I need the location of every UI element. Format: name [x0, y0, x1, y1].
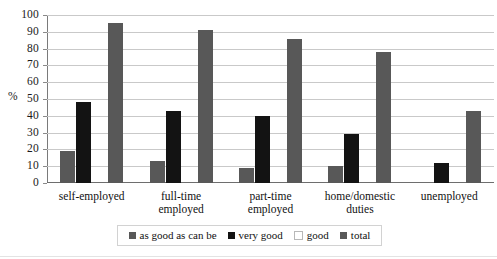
- x-axis-category-unemployed: unemployed: [405, 190, 494, 203]
- legend-swatch-icon: [340, 232, 347, 239]
- legend-item-very-good: very good: [228, 230, 283, 241]
- legend-swatch-icon: [294, 231, 303, 240]
- bar-as-good-as-can-be-self-employed: [60, 151, 75, 183]
- y-axis-tick-label: 50: [0, 93, 39, 105]
- legend-item-label: total: [351, 230, 371, 241]
- category-label-line: self-employed: [47, 190, 136, 203]
- y-axis-tick-label: 30: [0, 127, 39, 139]
- category-label-line: part-time: [226, 190, 315, 203]
- y-axis-tick-label: 80: [0, 43, 39, 55]
- legend-item-as-good-as-can-be: as good as can be: [129, 230, 217, 241]
- plot-area: 0102030405060708090100: [47, 15, 494, 183]
- legend-item-total: total: [340, 230, 371, 241]
- chart-legend: as good as can be very good good total: [117, 225, 382, 246]
- bar-as-good-as-can-be-home-domestic-duties: [328, 166, 343, 183]
- bar-as-good-as-can-be-part-time-employed: [239, 168, 254, 183]
- bar-chart: % 0102030405060708090100 self-employedfu…: [0, 0, 497, 259]
- y-axis-tick-label: 100: [0, 9, 39, 21]
- y-axis-tick-label: 10: [0, 160, 39, 172]
- legend-swatch-icon: [228, 232, 235, 239]
- x-axis-category-home-domestic-duties: home/domesticduties: [315, 190, 404, 216]
- y-axis-tick-mark: [43, 32, 47, 33]
- bar-very-good-self-employed: [76, 102, 91, 183]
- legend-item-label: as good as can be: [140, 230, 217, 241]
- category-label-line: duties: [315, 203, 404, 216]
- legend-swatch-icon: [129, 232, 136, 239]
- y-axis-tick-mark: [43, 116, 47, 117]
- bar-total-home-domestic-duties: [376, 52, 391, 183]
- x-axis-category-self-employed: self-employed: [47, 190, 136, 203]
- y-axis-tick-mark: [43, 149, 47, 150]
- y-axis-tick-mark: [43, 49, 47, 50]
- bar-total-full-time-employed: [198, 30, 213, 183]
- bar-as-good-as-can-be-full-time-employed: [150, 161, 165, 183]
- bar-very-good-part-time-employed: [255, 116, 270, 183]
- y-axis-tick-label: 60: [0, 76, 39, 88]
- category-label-line: full-time: [136, 190, 225, 203]
- bar-total-part-time-employed: [287, 39, 302, 183]
- legend-item-good: good: [294, 230, 329, 241]
- y-axis-tick-mark: [43, 15, 47, 16]
- bar-very-good-home-domestic-duties: [344, 134, 359, 183]
- y-axis-tick-label: 20: [0, 143, 39, 155]
- category-label-line: employed: [136, 203, 225, 216]
- legend-item-label: very good: [239, 230, 283, 241]
- x-axis-category-full-time-employed: full-timeemployed: [136, 190, 225, 216]
- y-axis-tick-mark: [43, 183, 47, 184]
- y-axis-tick-label: 0: [0, 177, 39, 189]
- y-axis-tick-mark: [43, 133, 47, 134]
- bar-total-unemployed: [466, 111, 481, 183]
- x-axis-category-part-time-employed: part-timeemployed: [226, 190, 315, 216]
- y-axis-tick-mark: [43, 82, 47, 83]
- gridline: [47, 15, 494, 16]
- category-label-line: home/domestic: [315, 190, 404, 203]
- category-label-line: unemployed: [405, 190, 494, 203]
- y-axis-tick-mark: [43, 65, 47, 66]
- category-label-line: employed: [226, 203, 315, 216]
- y-axis-tick-mark: [43, 166, 47, 167]
- y-axis-tick-mark: [43, 99, 47, 100]
- bar-very-good-full-time-employed: [166, 111, 181, 183]
- y-axis-tick-label: 70: [0, 59, 39, 71]
- y-axis-tick-label: 90: [0, 26, 39, 38]
- bar-total-self-employed: [108, 23, 123, 183]
- y-axis-tick-label: 40: [0, 110, 39, 122]
- bar-very-good-unemployed: [434, 163, 449, 183]
- legend-item-label: good: [307, 230, 329, 241]
- page-divider: [0, 256, 497, 257]
